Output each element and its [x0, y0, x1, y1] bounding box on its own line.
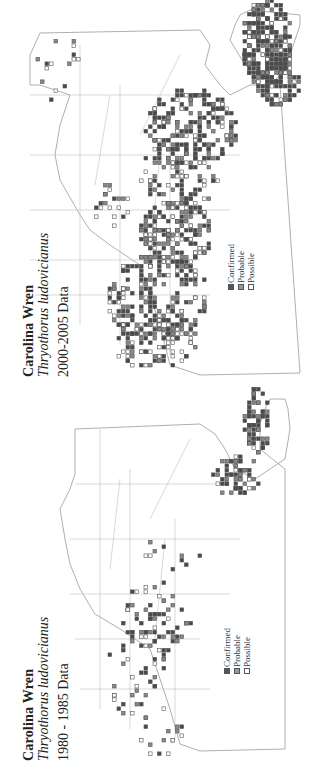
legend-item-confirmed: Confirmed [226, 244, 236, 290]
map-title-block: Carolina Wren Thryothorus ludovicianus 1… [22, 617, 72, 761]
legend-item-possible: Possible [242, 628, 252, 674]
data-period: 1980 - 1985 Data [57, 617, 72, 761]
probable-swatch-icon [238, 284, 244, 290]
map-panel-2000-2005: Carolina Wren Thryothorus ludovicianus 2… [0, 0, 312, 385]
legend-item-probable: Probable [236, 244, 246, 290]
map-title-block: Carolina Wren Thryothorus ludovicianus 2… [22, 233, 72, 377]
possible-swatch-icon [244, 668, 250, 674]
legend-item-confirmed: Confirmed [222, 628, 232, 674]
possible-swatch-icon [248, 284, 254, 290]
species-common-name: Carolina Wren [22, 233, 37, 377]
species-common-name: Carolina Wren [22, 617, 37, 761]
legend-item-probable: Probable [232, 628, 242, 674]
confirmed-swatch-icon [224, 668, 230, 674]
species-scientific-name: Thryothorus ludovicianus [37, 233, 52, 377]
map-legend: Confirmed Probable Possible [222, 628, 252, 674]
species-scientific-name: Thryothorus ludovicianus [37, 617, 52, 761]
data-period: 2000-2005 Data [57, 233, 72, 377]
map-legend: Confirmed Probable Possible [226, 244, 256, 290]
legend-item-possible: Possible [246, 244, 256, 290]
probable-swatch-icon [234, 668, 240, 674]
map-panel-1980-1985: Carolina Wren Thryothorus ludovicianus 1… [0, 385, 312, 769]
confirmed-swatch-icon [228, 284, 234, 290]
